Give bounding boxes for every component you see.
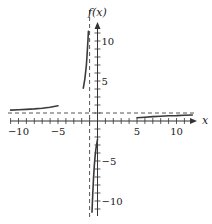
y-tick-label: −5: [102, 156, 117, 167]
x-tick-label: 5: [134, 126, 140, 137]
curve-branch-left-far: [11, 106, 58, 110]
x-axis-arrow-icon: [190, 118, 197, 124]
function-graph: −10−5510105−5−10 f(x) x: [0, 0, 212, 224]
x-tick-label: 10: [170, 126, 183, 137]
curve-branch-right-far: [137, 115, 192, 118]
y-axis-arrow-icon: [95, 22, 101, 29]
y-tick-label: 10: [102, 36, 115, 47]
y-axis-label: f(x): [87, 6, 107, 19]
y-tick-label: −10: [102, 196, 123, 207]
x-tick-label: −10: [8, 126, 29, 137]
x-tick-label: −5: [51, 126, 66, 137]
x-axis-label: x: [202, 114, 209, 127]
curves: [11, 31, 193, 212]
y-tick-label: 5: [102, 76, 108, 87]
curve-branch-left-near: [83, 31, 88, 88]
